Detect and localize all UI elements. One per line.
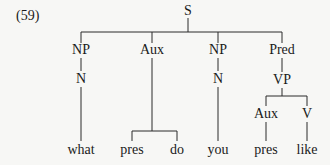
node-aux-1: Aux: [140, 43, 164, 57]
node-n-1: N: [76, 72, 86, 86]
node-s: S: [184, 4, 192, 18]
node-aux-2: Aux: [254, 107, 278, 121]
node-n-2: N: [213, 72, 223, 86]
leaf-pres-2: pres: [254, 143, 277, 157]
leaf-do: do: [170, 143, 184, 157]
node-pred: Pred: [269, 43, 295, 57]
leaf-you: you: [208, 143, 229, 157]
node-v: V: [302, 107, 312, 121]
leaf-pres-1: pres: [120, 143, 143, 157]
node-vp: VP: [273, 73, 291, 87]
node-np-2: NP: [209, 43, 227, 57]
leaf-like: like: [297, 143, 318, 157]
leaf-what: what: [67, 143, 94, 157]
node-np-1: NP: [72, 43, 90, 57]
